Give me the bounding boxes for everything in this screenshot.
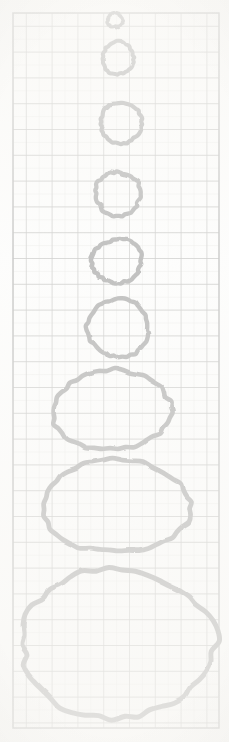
figure-canvas xyxy=(0,0,229,742)
graph-paper-sheet xyxy=(0,0,229,742)
paper-grain-overlay xyxy=(0,0,229,742)
